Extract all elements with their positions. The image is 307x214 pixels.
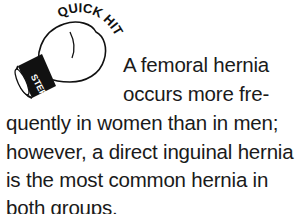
text-line: quently in women than in men;: [6, 113, 278, 134]
text-line: A femoral hernia: [123, 55, 269, 76]
text-line: both groups.: [6, 198, 118, 214]
text-line: is the most common hernia in: [6, 170, 268, 191]
boxing-glove-icon: STEP-UP QUICK HIT: [12, 2, 124, 102]
text-line: occurs more fre-: [123, 84, 269, 105]
text-line: however, a direct inguinal hernia: [6, 142, 293, 163]
